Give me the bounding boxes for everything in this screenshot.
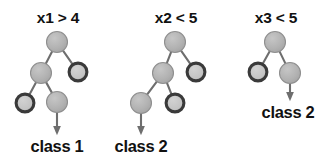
decision-tree-figure: x1 > 4 x2 < 5 x3 < 5 class 1 class 2 cla… bbox=[0, 0, 324, 164]
tree-edge bbox=[45, 50, 53, 65]
tree-node-filled bbox=[47, 32, 68, 53]
tree-edge bbox=[45, 81, 52, 94]
condition-label-tree-1: x1 > 4 bbox=[37, 10, 79, 26]
tree-node-outlined bbox=[187, 63, 205, 81]
tree-edge bbox=[166, 50, 172, 64]
tree-node-filled bbox=[47, 92, 68, 113]
tree-node-outlined bbox=[249, 63, 267, 81]
tree-nodes-group bbox=[16, 32, 300, 114]
tree-node-filled bbox=[131, 93, 152, 114]
tree-edge bbox=[62, 49, 73, 64]
outcome-label-tree-1: class 1 bbox=[31, 138, 84, 155]
tree-edge bbox=[262, 50, 270, 64]
tree-node-outlined bbox=[16, 94, 34, 112]
tree-edge bbox=[166, 81, 171, 94]
outcome-label-tree-2: class 2 bbox=[115, 138, 168, 155]
outcome-label-tree-3: class 2 bbox=[262, 104, 315, 121]
tree-edge bbox=[279, 50, 286, 65]
tree-node-filled bbox=[31, 63, 52, 84]
condition-label-tree-2: x2 < 5 bbox=[155, 10, 197, 26]
condition-label-tree-3: x3 < 5 bbox=[255, 10, 297, 26]
tree-edge bbox=[180, 49, 191, 64]
tree-node-filled bbox=[280, 63, 301, 84]
tree-node-filled bbox=[265, 32, 286, 53]
tree-node-outlined bbox=[166, 94, 184, 112]
tree-node-filled bbox=[165, 32, 186, 53]
tree-edge bbox=[146, 80, 157, 95]
tree-node-outlined bbox=[69, 63, 87, 81]
tree-edge bbox=[29, 81, 37, 95]
tree-node-filled bbox=[153, 63, 174, 84]
